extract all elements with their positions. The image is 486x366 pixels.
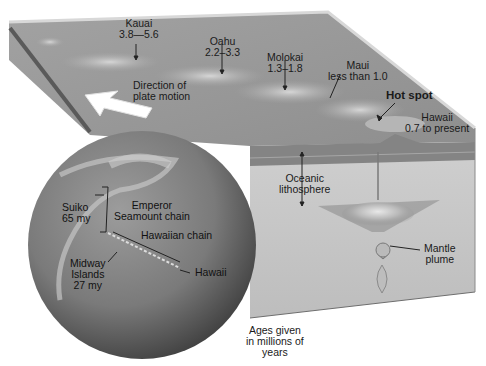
oceanic-lithosphere-label: Oceanic lithosphere <box>279 173 330 195</box>
oceanic-line2: lithosphere <box>279 184 330 195</box>
island-age: 3.8—5.6 <box>119 29 159 40</box>
island-label-maui: Maui less than 1.0 <box>328 60 388 82</box>
emperor-line2: Seamount chain <box>114 211 190 222</box>
island-label-hawaii: Hawaii 0.7 to present <box>405 112 469 134</box>
island-age: 0.7 to present <box>405 123 469 134</box>
island-age: less than 1.0 <box>328 71 388 82</box>
globe-label-hawaii: Hawaii <box>195 267 227 278</box>
plate-motion-label: Direction of plate motion <box>133 80 190 102</box>
mantle-plume-label: Mantle plume <box>424 243 456 265</box>
mantle-line2: plume <box>424 254 456 265</box>
plate-motion-line2: plate motion <box>133 91 190 102</box>
globe-label-suiko: Suiko 65 my <box>62 202 91 224</box>
suiko-age: 65 my <box>62 213 91 224</box>
globe-label-emperor-chain: Emperor Seamount chain <box>114 200 190 222</box>
island-age: 2.2–3.3 <box>205 47 240 58</box>
island-label-oahu: Oahu 2.2–3.3 <box>205 36 240 58</box>
globe-label-hawaiian-chain: Hawaiian chain <box>141 230 212 241</box>
hot-spot-label: Hot spot <box>386 90 433 101</box>
island-age: 1.3–1.8 <box>267 63 303 74</box>
island-label-molokai: Molokai 1.3–1.8 <box>267 52 303 74</box>
ages-note: Ages given in millions of years <box>246 325 304 358</box>
block-diagram-graphic <box>0 0 486 366</box>
island-label-kauai: Kauai 3.8—5.6 <box>119 18 159 40</box>
block-side-face <box>250 142 475 318</box>
midway-age: 27 my <box>70 280 106 291</box>
ages-line3: years <box>246 347 304 358</box>
hot-spot-diagram: Kauai 3.8—5.6 Oahu 2.2–3.3 Molokai 1.3–1… <box>0 0 486 366</box>
globe-label-midway: Midway Islands 27 my <box>70 258 106 291</box>
